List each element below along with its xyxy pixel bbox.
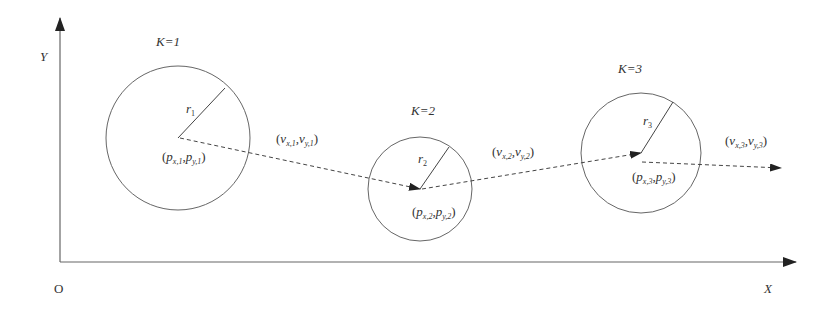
k1-label: K=1	[156, 35, 180, 48]
k2-label: K=2	[411, 104, 435, 117]
velocity-label-2: (vx,2,vy,2)	[492, 145, 534, 161]
diagram-canvas	[0, 0, 833, 314]
position-label-3: (px,3,py,3)	[632, 170, 676, 186]
velocity-label-3: (vx,3,vy,3)	[725, 134, 767, 150]
origin-label: O	[54, 282, 63, 295]
r2-label: r2	[418, 152, 427, 168]
position-label-2: (px,2,py,2)	[412, 205, 456, 221]
position-label-1: (px,1,py,1)	[162, 150, 206, 166]
y-axis-label: Y	[40, 50, 47, 63]
velocity-arrow-3	[642, 162, 781, 168]
k3-label: K=3	[618, 62, 642, 75]
r3-label: r3	[643, 114, 652, 130]
r1-label: r1	[186, 102, 195, 118]
x-axis-label: X	[764, 282, 772, 295]
velocity-label-1: (vx,1,vy,1)	[276, 132, 318, 148]
